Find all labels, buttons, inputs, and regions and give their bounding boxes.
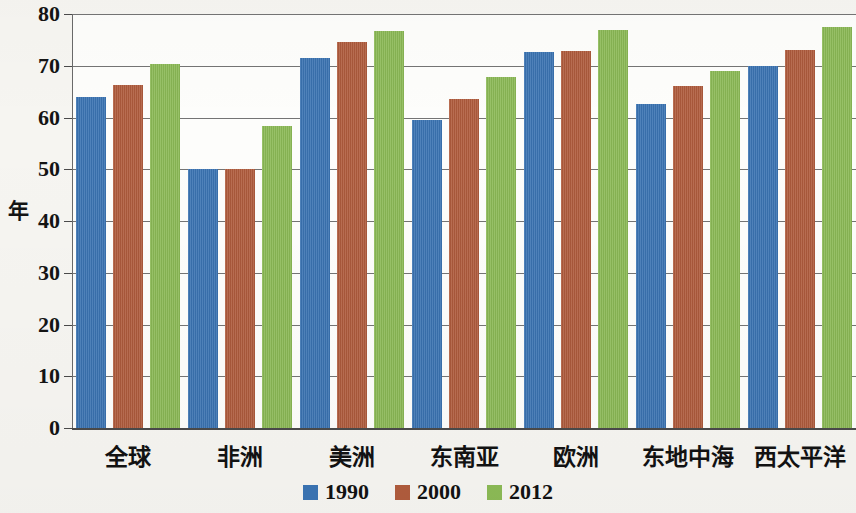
bar-美洲-1990 <box>300 58 330 428</box>
y-tick-label-20: 20 <box>12 314 60 336</box>
y-tick-label-60: 60 <box>12 107 60 129</box>
bar-group <box>408 14 520 428</box>
plot-area <box>72 14 856 428</box>
bar-欧洲-2012 <box>598 30 628 428</box>
bar-全球-2000 <box>113 85 143 428</box>
y-tick-mark-0 <box>64 428 72 429</box>
bar-非洲-2012 <box>262 126 292 428</box>
bar-东南亚-2000 <box>449 99 479 428</box>
legend-label-2012: 2012 <box>509 481 553 503</box>
category-label-全球: 全球 <box>105 438 151 472</box>
bar-group <box>72 14 184 428</box>
category-label-西太平洋: 西太平洋 <box>754 438 846 472</box>
category-label-东地中海: 东地中海 <box>642 438 734 472</box>
chart-legend: 199020002012 <box>0 481 856 503</box>
bar-西太平洋-2012 <box>822 27 852 428</box>
bar-group <box>632 14 744 428</box>
legend-item-2012: 2012 <box>487 481 553 503</box>
gridline-0 <box>72 428 856 430</box>
y-tick-mark-70 <box>64 66 72 67</box>
category-label-欧洲: 欧洲 <box>553 438 599 472</box>
bar-全球-1990 <box>76 97 106 428</box>
bar-东地中海-2000 <box>673 86 703 428</box>
bar-非洲-2000 <box>225 169 255 428</box>
y-tick-mark-10 <box>64 376 72 377</box>
bar-东地中海-1990 <box>636 104 666 428</box>
y-tick-mark-80 <box>64 14 72 15</box>
y-tick-mark-60 <box>64 118 72 119</box>
bar-group <box>744 14 856 428</box>
legend-label-2000: 2000 <box>417 481 461 503</box>
category-label-美洲: 美洲 <box>329 438 375 472</box>
bar-美洲-2000 <box>337 42 367 428</box>
category-label-东南亚: 东南亚 <box>430 438 499 472</box>
bar-全球-2012 <box>150 64 180 428</box>
y-tick-label-80: 80 <box>12 3 60 25</box>
y-tick-label-50: 50 <box>12 158 60 180</box>
bar-group <box>520 14 632 428</box>
y-tick-mark-30 <box>64 273 72 274</box>
bar-非洲-1990 <box>188 169 218 428</box>
y-tick-label-30: 30 <box>12 262 60 284</box>
y-tick-mark-50 <box>64 169 72 170</box>
bar-东南亚-1990 <box>412 120 442 428</box>
legend-swatch-2000 <box>395 485 410 500</box>
y-tick-label-10: 10 <box>12 365 60 387</box>
bar-group <box>296 14 408 428</box>
y-axis-line <box>72 14 73 428</box>
legend-swatch-1990 <box>303 485 318 500</box>
bar-东南亚-2012 <box>486 77 516 428</box>
legend-item-2000: 2000 <box>395 481 461 503</box>
y-tick-mark-40 <box>64 221 72 222</box>
bar-东地中海-2012 <box>710 71 740 428</box>
legend-label-1990: 1990 <box>325 481 369 503</box>
y-tick-label-0: 0 <box>12 417 60 439</box>
y-axis-title: 年 <box>2 200 32 222</box>
bar-欧洲-1990 <box>524 52 554 428</box>
y-tick-label-70: 70 <box>12 55 60 77</box>
y-tick-mark-20 <box>64 325 72 326</box>
bar-欧洲-2000 <box>561 51 591 428</box>
bar-西太平洋-1990 <box>748 66 778 428</box>
bar-美洲-2012 <box>374 31 404 428</box>
legend-swatch-2012 <box>487 485 502 500</box>
bar-西太平洋-2000 <box>785 50 815 428</box>
bar-group <box>184 14 296 428</box>
category-label-非洲: 非洲 <box>217 438 263 472</box>
chart-page: 80706050403020100 年 全球非洲美洲东南亚欧洲东地中海西太平洋 … <box>0 0 856 513</box>
legend-item-1990: 1990 <box>303 481 369 503</box>
